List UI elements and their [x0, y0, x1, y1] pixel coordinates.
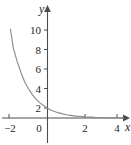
y-axis-label: y: [39, 3, 44, 15]
exponential-decay-graph: 2 4 6 8 10 −2 0 2 4 y x: [0, 0, 131, 145]
y-tick-label-4: 4: [20, 84, 41, 95]
y-tick-label-6: 6: [20, 64, 41, 75]
y-tick-label-2: 2: [20, 103, 41, 114]
x-axis-label: x: [125, 121, 130, 133]
x-tick-label-0: 0: [29, 123, 49, 134]
x-tick-label-2: 2: [75, 123, 95, 134]
y-axis-arrowhead: [44, 5, 51, 12]
x-tick-label-4: 4: [107, 123, 127, 134]
y-tick-label-10: 10: [18, 25, 41, 36]
x-tick-label--2: −2: [0, 123, 20, 134]
y-tick-label-8: 8: [20, 45, 41, 56]
